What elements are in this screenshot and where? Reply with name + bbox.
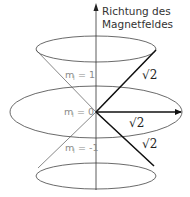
cone-lower-left-edge (38, 112, 96, 168)
svg-text:l: l (72, 111, 74, 118)
svg-text:= 0: = 0 (77, 106, 94, 117)
svg-text:= -1: = -1 (78, 142, 98, 153)
svg-text:l: l (73, 74, 75, 81)
cone-upper-left-edge (36, 50, 96, 112)
state-label-m-minus1: m l = -1 (65, 142, 98, 154)
svg-text:= 1: = 1 (78, 69, 95, 80)
vector-label-m1: √2 (142, 68, 157, 82)
axis-label-line2: Magnetfeldes (102, 18, 173, 30)
state-label-m0: m l = 0 (64, 106, 94, 118)
axis-arrow-icon (94, 3, 99, 11)
state-label-m1: m l = 1 (65, 69, 95, 81)
svg-text:l: l (73, 147, 75, 154)
vector-label-m-minus1: √2 (142, 137, 157, 151)
axis-label-line1: Richtung des (102, 5, 171, 17)
vector-label-m0: √2 (129, 116, 144, 130)
angular-momentum-vector-diagram: Richtung des Magnetfeldes m l = 1 m l = … (0, 0, 190, 197)
